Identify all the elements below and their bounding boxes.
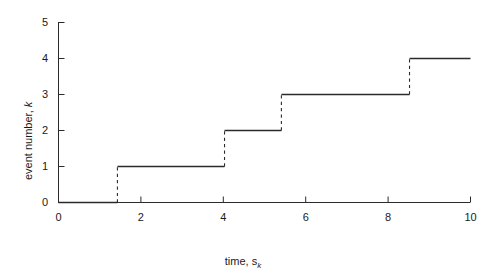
x-tick-label-0: 0 [55,211,61,223]
x-tick-label-10: 10 [464,211,476,223]
y-tick-marks [59,23,65,203]
step-plot [0,0,486,278]
y-tick-label-4: 4 [28,52,48,64]
x-axis-title: time, sk [0,255,486,270]
x-tick-label-8: 8 [385,211,391,223]
axes [58,22,471,203]
x-axis-title-subscript: k [257,261,261,270]
x-axis-title-text: time, s [225,255,257,267]
y-axis-title-text: event number, [22,107,34,180]
x-tick-marks [59,197,471,203]
y-axis-title-symbol: k [22,102,34,108]
y-tick-label-0: 0 [28,196,48,208]
x-tick-label-4: 4 [220,211,226,223]
step-plateaus [59,59,471,203]
y-tick-label-3: 3 [28,88,48,100]
x-tick-label-2: 2 [138,211,144,223]
chart-figure: 5 4 3 2 1 0 0 2 4 6 8 10 time, sk event … [0,0,486,278]
y-tick-label-5: 5 [28,16,48,28]
x-tick-label-6: 6 [303,211,309,223]
y-axis-title: event number, k [22,102,34,180]
